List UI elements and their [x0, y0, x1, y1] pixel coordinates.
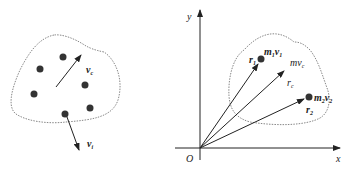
particle-dot: [87, 105, 94, 112]
r1-vector: [200, 64, 258, 148]
r1-label: r1: [249, 54, 256, 66]
particle-dot: [31, 91, 38, 98]
r2-label: r2: [306, 104, 313, 116]
center-momentum-label: mvc: [290, 57, 305, 69]
rc-label: rc: [287, 77, 294, 89]
left-figure: vc vi: [11, 35, 120, 150]
origin-label: O: [186, 153, 193, 164]
particle-1-label: m1v1: [264, 46, 282, 58]
right-figure: y x O m1v1 r1 mvc rc m2v2 r2: [175, 10, 341, 164]
diagram: vc vi y x O m1v1 r1 mvc rc m2v2 r2: [0, 0, 351, 179]
particle-dot: [37, 66, 44, 73]
body-outline: [11, 35, 120, 123]
x-axis-label: x: [335, 153, 341, 164]
rc-vector: [200, 71, 284, 148]
velocity-center-label: vc: [86, 64, 93, 76]
particle-dot: [82, 82, 89, 89]
r2-vector: [200, 99, 304, 148]
particle-2-dot: [306, 94, 313, 101]
particle-2-label: m2v2: [314, 92, 332, 104]
velocity-particle-label: vi: [87, 138, 93, 150]
particle-dot: [60, 54, 67, 61]
y-axis-label: y: [186, 11, 192, 22]
particle-i-dot: [62, 111, 69, 118]
velocity-center-arrow: [56, 55, 81, 87]
velocity-particle-arrow: [67, 117, 79, 150]
